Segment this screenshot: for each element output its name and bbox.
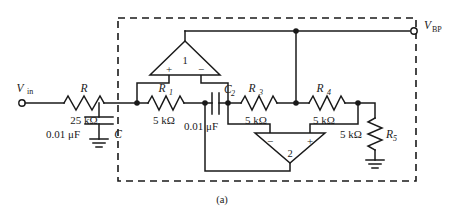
input-terminal-label: V xyxy=(16,82,25,94)
dashed-enclosure xyxy=(118,18,416,181)
resistor-R3-value: 5 kΩ xyxy=(245,114,267,126)
figure-caption: (a) xyxy=(216,194,228,206)
resistor-R4-sub: 4 xyxy=(327,88,331,97)
capacitor-C2-sub: 2 xyxy=(231,89,235,98)
resistor-R5-symbol xyxy=(368,118,382,150)
resistor-R-value: 25 kΩ xyxy=(70,114,97,126)
input-terminal-node[interactable] xyxy=(19,100,25,106)
resistor-R5-sub: 5 xyxy=(393,134,397,143)
opamp-1-plus-input-icon: + xyxy=(166,63,172,75)
opamp-1-minus-input-icon: − xyxy=(198,63,204,75)
resistor-R1-value: 5 kΩ xyxy=(153,114,175,126)
capacitor-C-value: 0.01 μF xyxy=(46,128,80,140)
resistor-R3-symbol xyxy=(241,96,277,110)
circuit-schematic-svg: V in V BP R 25 kΩ 0.01 μF C R 1 5 kΩ C 2… xyxy=(0,0,455,217)
opamp-2-plus-input-icon: + xyxy=(307,135,313,147)
opamp-2-minus-input-icon: − xyxy=(267,135,273,147)
wire-nodee-to-r5 xyxy=(358,103,375,118)
resistor-R3-sub: 3 xyxy=(258,88,263,97)
resistor-R4-value: 5 kΩ xyxy=(313,114,335,126)
resistor-R-ref: R xyxy=(79,82,87,94)
input-terminal-sublabel: in xyxy=(27,87,33,96)
resistor-R1-symbol xyxy=(148,96,184,110)
resistor-R1-ref: R xyxy=(157,82,165,94)
resistor-R5-value: 5 kΩ xyxy=(340,128,362,140)
resistor-R5-ref: R xyxy=(385,128,393,140)
output-terminal-sublabel: BP xyxy=(432,25,442,34)
resistor-R3-ref: R xyxy=(247,82,255,94)
resistor-R4-ref: R xyxy=(315,82,323,94)
resistor-R-symbol xyxy=(64,96,104,110)
output-terminal-node[interactable] xyxy=(411,28,417,34)
capacitor-C-ref: C xyxy=(114,128,122,140)
opamp-1-number: 1 xyxy=(182,55,187,66)
resistor-R4-symbol xyxy=(309,96,345,110)
opamp-2-number: 2 xyxy=(287,148,292,159)
capacitor-C2-value: 0.01 μF xyxy=(184,120,218,132)
resistor-R1-sub: 1 xyxy=(169,88,173,97)
circuit-figure: V in V BP R 25 kΩ 0.01 μF C R 1 5 kΩ C 2… xyxy=(0,0,455,217)
